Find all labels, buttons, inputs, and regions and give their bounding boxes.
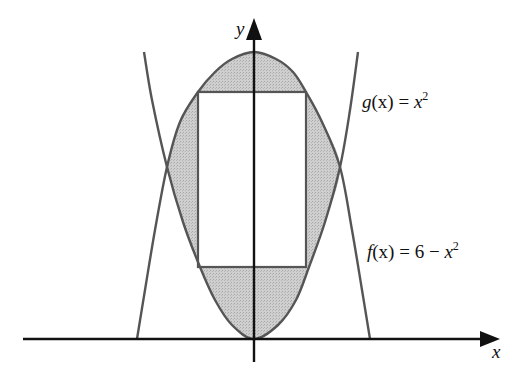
label-f: f(x) = 6 − x2 xyxy=(367,239,459,263)
y-axis-label: y xyxy=(234,18,245,39)
label-f-exp: 2 xyxy=(453,239,459,253)
inscribed-rectangle xyxy=(198,92,306,267)
y-axis-arrowhead xyxy=(246,18,262,40)
label-f-eq: = 6 − xyxy=(394,241,444,262)
label-g-exp: 2 xyxy=(422,89,428,103)
x-axis-label: x xyxy=(491,341,501,362)
label-f-arg: (x) xyxy=(372,241,394,263)
label-g: g(x) = x2 xyxy=(362,89,428,113)
label-g-eq: = xyxy=(394,91,414,112)
label-g-arg: (x) xyxy=(372,91,394,113)
label-g-name: g xyxy=(362,91,372,112)
parabola-rectangle-diagram: y x g(x) = x2 f(x) = 6 − x2 xyxy=(0,0,529,390)
